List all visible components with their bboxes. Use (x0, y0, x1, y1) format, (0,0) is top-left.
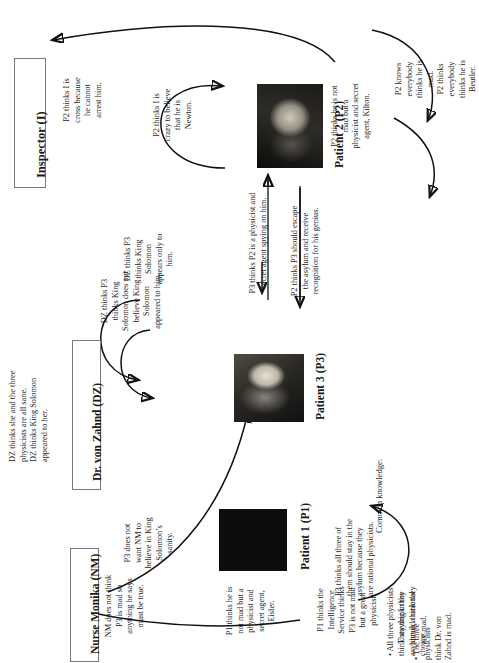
node-patient1-label: Patient 1 (P1) (299, 503, 311, 570)
annotation-p3-spy: P3 thinks P2 is a physicist and secret a… (248, 180, 269, 306)
annotation-p2-knows: P2 knows everybody thinks he is mad. P2 … (394, 20, 479, 138)
annotation-p3-rational: P3 thinks all three of them should stay … (334, 476, 376, 596)
annotation-p2-self: P2 thinks he is not mad but a physicist … (330, 70, 372, 162)
annotation-nm-mad: NM does not think P3 is mad so anything … (104, 554, 146, 658)
annotation-dz-top: DZ thinks she and the three physicists a… (8, 371, 50, 462)
patient3-photo (234, 354, 304, 422)
node-inspector-label: Inspector (I) (34, 111, 49, 178)
patient2-photo (257, 84, 323, 168)
common-knowledge-heading: Common knowledge: (374, 459, 385, 533)
node-patient3-label: Patient 3 (P3) (314, 353, 326, 420)
common-knowledge-item-2: • The three physicists think Dr. von Zah… (412, 610, 455, 660)
annotation-p2-newton: P2 thinks I is crazy to believe that he … (152, 74, 194, 156)
annotation-dz-p3-appeared: DZ thinks P3 thinks King Solomon does no… (100, 254, 164, 348)
patient1-photo (219, 509, 287, 571)
annotation-p2-arrest: P2 thinks I is cross because he cannot a… (62, 52, 104, 148)
annotation-p2-escape: P2 thinks P3 should escape the asylum an… (290, 190, 322, 312)
node-von-zahnd-label: Dr. von Zahnd (DZ) (91, 383, 103, 481)
annotation-p1-self: P1 thinks he is not mad but a physicist … (225, 564, 278, 658)
node-nurse-monika-label: Nurse Monika (NM) (89, 554, 101, 654)
